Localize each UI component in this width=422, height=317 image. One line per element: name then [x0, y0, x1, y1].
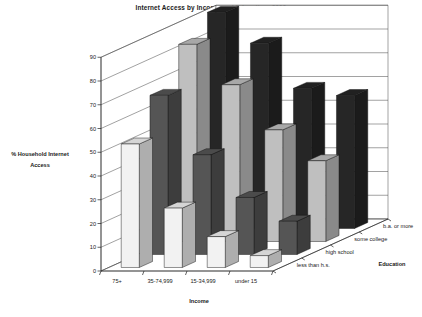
bar-less-than-h-s--35-74-999 — [164, 202, 195, 267]
z-tick-label: high school — [326, 249, 354, 255]
bar-high-school-15-34-999 — [236, 192, 267, 255]
y-tick-label: 80 — [90, 78, 96, 84]
x-tick-label: 35-74,999 — [147, 278, 172, 284]
y-tick-label: 30 — [90, 197, 96, 203]
chart-container: Internet Access by Income and Education,… — [0, 0, 422, 317]
z-tick-label: less than h.s. — [297, 262, 330, 268]
x-tick-label: 15-34,999 — [190, 278, 215, 284]
bar-chart-3d: Internet Access by Income and Education,… — [0, 0, 422, 317]
x-axis-label: Income — [189, 298, 209, 304]
y-tick-label: 90 — [90, 54, 96, 60]
y-tick-label: 70 — [90, 102, 96, 108]
x-tick-label: 75+ — [112, 278, 122, 284]
y-tick-label: 60 — [90, 126, 96, 132]
y-tick-label: 20 — [90, 221, 96, 227]
y-axis-label-line2: Access — [30, 162, 50, 168]
y-axis-label: % Household Internet — [11, 151, 69, 157]
y-tick-label: 10 — [90, 244, 96, 250]
z-tick-label: b.a. or more — [383, 223, 413, 229]
x-axis-ticks: 75+35-74,99915-34,999under 15 — [100, 271, 274, 284]
bar-some-college-under-15 — [308, 155, 339, 242]
z-tick-label: some college — [354, 236, 387, 242]
bar-less-than-h-s--15-34-999 — [207, 231, 238, 268]
bar-high-school-under-15 — [279, 215, 310, 254]
z-axis-label: Education — [378, 261, 406, 267]
bar-less-than-h-s--75- — [121, 138, 152, 267]
x-tick-label: under 15 — [235, 278, 257, 284]
y-tick-label: 50 — [90, 149, 96, 155]
bar-b-a-or-more-under-15 — [336, 90, 367, 229]
y-axis-ticks: 0102030405060708090 — [90, 54, 101, 274]
y-tick-label: 0 — [93, 268, 96, 274]
y-tick-label: 40 — [90, 173, 96, 179]
